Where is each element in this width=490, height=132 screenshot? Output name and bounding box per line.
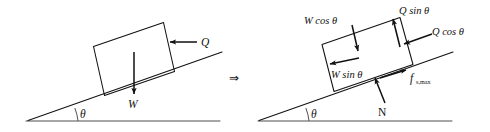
left-force-label-W: W	[128, 98, 139, 110]
implies-symbol: ⇒	[229, 72, 239, 84]
left-diagram: θ Q W	[26, 23, 222, 122]
right-force-arrow-N	[375, 78, 385, 103]
right-force-label-fsmax-subscript: s,max	[416, 78, 432, 85]
right-angle-arc	[306, 108, 309, 120]
left-angle-label: θ	[80, 108, 86, 120]
right-force-label-Qcos: Q cos θ	[432, 26, 464, 37]
right-force-arrow-Qcos	[404, 34, 432, 44]
right-force-arrow-Qsin	[393, 19, 400, 47]
right-force-label-Qsin: Q sin θ	[399, 5, 429, 16]
right-diagram: θ W cos θ W sin θ Q sin θ Q cos θ N f s,…	[258, 5, 464, 121]
figure-canvas: θ Q W ⇒ θ	[0, 0, 490, 132]
right-incline-line	[259, 52, 453, 121]
left-incline-line	[28, 52, 222, 121]
right-angle-label: θ	[311, 108, 317, 120]
right-force-label-fsmax: f	[410, 72, 415, 85]
left-angle-arc	[75, 108, 78, 120]
right-force-label-N: N	[378, 106, 387, 118]
right-force-arrow-Wsin	[330, 58, 359, 64]
right-force-label-Wcos: W cos θ	[304, 15, 337, 26]
left-force-label-Q: Q	[201, 36, 210, 48]
right-force-arrow-Wcos	[352, 25, 358, 51]
physics-figure: θ Q W ⇒ θ	[0, 0, 490, 132]
right-block	[322, 18, 413, 92]
implies-arrow: ⇒	[229, 72, 239, 84]
right-force-label-Wsin: W sin θ	[331, 69, 362, 80]
